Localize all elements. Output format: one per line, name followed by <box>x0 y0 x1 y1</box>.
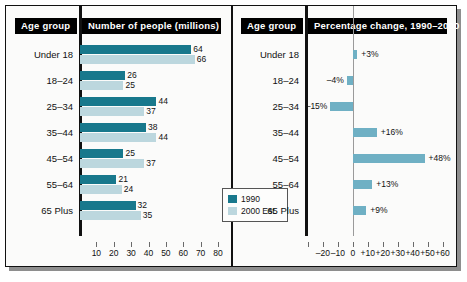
right-axis-tick-label: +40 <box>405 248 419 258</box>
right-axis-tick <box>398 242 399 247</box>
right-axis-tick <box>428 242 429 247</box>
left-category-label: 55–64 <box>47 172 73 198</box>
left-bar-1990 <box>80 149 123 158</box>
right-axis-tick <box>353 242 354 247</box>
left-chart-title: Number of people (millions) <box>82 18 221 34</box>
left-axis-tick-label: 70 <box>196 248 205 258</box>
right-age-group-header-label: Age group <box>241 18 303 34</box>
left-bar-value: 32 <box>138 201 147 210</box>
left-category-label: 45–54 <box>47 146 73 172</box>
right-bar-value: +48% <box>429 154 451 163</box>
left-bar-2000 <box>80 55 195 64</box>
left-axis-tick-label: 20 <box>109 248 118 258</box>
right-axis-tick-label: –20 <box>316 248 330 258</box>
left-bar-value: 24 <box>124 185 133 194</box>
right-chart-row: Under 18+3% <box>305 42 447 68</box>
right-chart-panel: Age group Percentage change, 1990–2000 U… <box>232 6 456 266</box>
right-chart-title-label: Percentage change, 1990–2000 <box>308 18 447 34</box>
left-bar-1990 <box>80 45 191 54</box>
right-axis-tick-label: +10 <box>361 248 375 258</box>
right-axis-tick-label: +20 <box>376 248 390 258</box>
left-bar-value: 64 <box>193 45 202 54</box>
left-axis-tick-label: 40 <box>144 248 153 258</box>
left-age-group-header: Age group <box>15 18 77 34</box>
right-bar <box>353 180 372 189</box>
left-bar-1990 <box>80 97 156 106</box>
right-bar <box>330 102 352 111</box>
left-bar-value: 26 <box>127 71 136 80</box>
left-category-label: 35–44 <box>47 120 73 146</box>
left-chart-row: 45–542537 <box>79 146 218 172</box>
left-axis-tick <box>218 242 219 247</box>
right-axis-tick-label: +60 <box>435 248 449 258</box>
left-bar-value: 21 <box>118 175 127 184</box>
left-bar-2000 <box>80 107 144 116</box>
left-chart-row: 35–443844 <box>79 120 218 146</box>
right-bar-value: –4% <box>327 76 344 85</box>
right-chart-row: 55–64+13% <box>305 172 447 198</box>
right-category-label: 35–44 <box>273 120 299 146</box>
right-category-label: 65 Plus <box>267 198 299 224</box>
left-bar-1990 <box>80 175 116 184</box>
left-x-axis: 1020304050607080 <box>79 236 218 266</box>
left-axis-tick <box>114 242 115 247</box>
right-x-axis: –20–100+10+20+30+40+50+60 <box>305 236 447 266</box>
left-bar-1990 <box>80 123 146 132</box>
left-axis-tick <box>149 242 150 247</box>
left-bar-2000 <box>80 81 123 90</box>
right-bar-value: +9% <box>370 206 387 215</box>
right-bar-value: +3% <box>361 50 378 59</box>
left-axis-tick <box>201 242 202 247</box>
left-bar-2000 <box>80 211 141 220</box>
left-axis-tick-label: 50 <box>161 248 170 258</box>
right-plot-area: Under 18+3%18–24–4%25–34–15%35–44+16%45–… <box>305 36 447 236</box>
left-bar-1990 <box>80 201 136 210</box>
left-chart-panel: Age group Number of people (millions) Un… <box>6 6 231 266</box>
figure-frame: Age group Number of people (millions) Un… <box>5 5 457 267</box>
right-chart-row: 18–24–4% <box>305 68 447 94</box>
right-axis-tick <box>323 242 324 247</box>
right-bar <box>353 206 366 215</box>
left-axis-tick-label: 30 <box>126 248 135 258</box>
right-bar <box>347 76 353 85</box>
right-chart-row: 35–44+16% <box>305 120 447 146</box>
left-bar-1990 <box>80 71 125 80</box>
left-bar-value: 37 <box>146 107 155 116</box>
right-chart-row: 25–34–15% <box>305 94 447 120</box>
right-category-label: 25–34 <box>273 94 299 120</box>
left-bar-value: 38 <box>148 123 157 132</box>
left-chart-row: 25–344437 <box>79 94 218 120</box>
left-bar-value: 35 <box>143 211 152 220</box>
left-bar-2000 <box>80 159 144 168</box>
left-category-label: 25–34 <box>47 94 73 120</box>
right-axis-tick-label: +30 <box>390 248 404 258</box>
left-bar-2000 <box>80 133 156 142</box>
left-bar-value: 44 <box>158 97 167 106</box>
right-chart-row: 65 Plus+9% <box>305 198 447 224</box>
left-category-label: 65 Plus <box>41 198 73 224</box>
right-category-label: 55–64 <box>273 172 299 198</box>
right-axis-tick <box>308 242 309 247</box>
left-axis-tick <box>96 242 97 247</box>
right-chart-title: Percentage change, 1990–2000 <box>308 18 447 34</box>
right-axis-tick <box>443 242 444 247</box>
left-chart-row: 65 Plus3235 <box>79 198 218 224</box>
right-category-label: 45–54 <box>273 146 299 172</box>
right-axis-tick <box>368 242 369 247</box>
left-axis-tick-label: 60 <box>179 248 188 258</box>
right-bar <box>353 154 425 163</box>
left-bar-value: 25 <box>125 149 134 158</box>
right-bar <box>353 128 377 137</box>
right-bar-value: +13% <box>376 180 398 189</box>
right-category-label: Under 18 <box>260 42 299 68</box>
right-axis-tick-label: 0 <box>350 248 355 258</box>
right-bar <box>353 50 357 59</box>
left-axis-tick <box>131 242 132 247</box>
right-chart-row: 45–54+48% <box>305 146 447 172</box>
right-category-label: 18–24 <box>273 68 299 94</box>
left-bar-value: 37 <box>146 159 155 168</box>
right-bar-value: –15% <box>306 102 328 111</box>
left-axis-tick <box>166 242 167 247</box>
right-axis-tick <box>338 242 339 247</box>
left-axis-tick <box>183 242 184 247</box>
